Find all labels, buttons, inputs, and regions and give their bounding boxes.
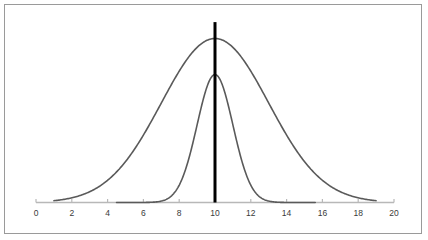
x-axis-tick-label: 20 xyxy=(389,208,399,218)
chart-figure: 02468101214161820 xyxy=(0,0,428,240)
x-axis-tick-label: 8 xyxy=(177,208,182,218)
x-axis-tick-label: 2 xyxy=(69,208,74,218)
x-axis-tick-label: 10 xyxy=(210,208,220,218)
distribution-chart: 02468101214161820 xyxy=(0,0,428,240)
x-axis-tick-label: 4 xyxy=(105,208,110,218)
x-axis-tick-label: 6 xyxy=(141,208,146,218)
x-axis-tick-label: 16 xyxy=(318,208,328,218)
x-axis-tick-labels: 02468101214161820 xyxy=(34,208,399,218)
x-axis-tick-label: 14 xyxy=(282,208,292,218)
x-axis-tick-label: 18 xyxy=(353,208,363,218)
x-axis-tick-label: 12 xyxy=(246,208,256,218)
x-axis-tick-label: 0 xyxy=(34,208,39,218)
